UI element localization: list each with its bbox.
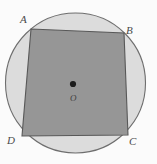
vertex-label-c: C	[129, 136, 136, 147]
center-point-dot	[70, 81, 76, 87]
center-label-o: O	[70, 94, 77, 103]
geometry-figure: A B C D O	[0, 0, 157, 164]
vertex-label-d: D	[7, 135, 15, 146]
vertex-label-b: B	[126, 25, 133, 36]
vertex-label-a: A	[20, 14, 27, 25]
